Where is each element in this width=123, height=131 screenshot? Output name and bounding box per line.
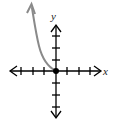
y-axis-label: y: [50, 10, 56, 22]
x-axis-label: x: [102, 65, 108, 77]
origin-point: [53, 68, 59, 74]
curve-arrow-icon: [27, 4, 35, 14]
coordinate-graph: x y: [0, 0, 123, 131]
